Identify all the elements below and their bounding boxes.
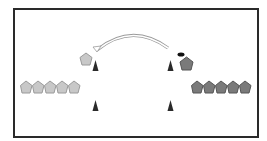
dark-team-queue — [191, 80, 253, 94]
cone-icon — [92, 60, 99, 72]
dark-player-active-icon — [179, 56, 194, 71]
pass-arrow-icon — [90, 28, 175, 52]
cone-icon — [167, 100, 174, 112]
cone-icon — [167, 60, 174, 72]
light-player-active-icon — [79, 52, 93, 66]
cone-icon — [92, 100, 99, 112]
light-team-queue — [20, 80, 82, 94]
